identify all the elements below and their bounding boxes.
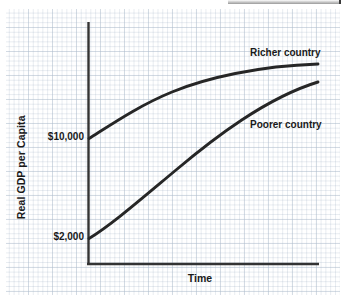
x-axis-title: Time bbox=[150, 273, 250, 284]
richer-country-label: Richer country bbox=[250, 48, 321, 58]
poorer-country-label: Poorer country bbox=[250, 120, 322, 130]
poorer-country-curve bbox=[89, 82, 318, 239]
y-axis-tick-label-10000: $10,000 bbox=[0, 132, 84, 142]
y-axis-tick-label-2000: $2,000 bbox=[0, 232, 84, 242]
gdp-convergence-chart: Real GDP per Capita Time $10,000 $2,000 … bbox=[0, 0, 345, 307]
y-axis-title: Real GDP per Capita bbox=[16, 115, 27, 219]
